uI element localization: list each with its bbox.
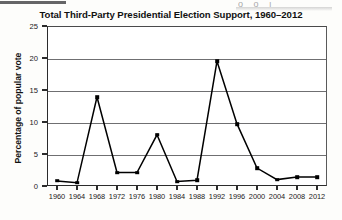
data-point [295, 175, 299, 179]
series-line [47, 26, 327, 186]
chart-figure: o o ı Total Third-Party Presidential Ele… [0, 0, 342, 220]
x-tick-mark [276, 186, 277, 190]
x-tick-mark [116, 186, 117, 190]
x-tick-mark [236, 186, 237, 190]
x-tick-mark [296, 186, 297, 190]
x-tick-mark [96, 186, 97, 190]
y-tick-label: 10 [12, 118, 38, 127]
x-tick-mark [216, 186, 217, 190]
x-tick-mark [136, 186, 137, 190]
y-tick-label: 20 [12, 54, 38, 63]
data-point [315, 175, 319, 179]
data-point [115, 171, 119, 175]
data-point [55, 179, 59, 183]
data-point [235, 122, 239, 126]
data-point [255, 166, 259, 170]
x-tick-label: 2012 [300, 192, 334, 201]
scan-artifact-text: o o ı [238, 0, 290, 8]
x-tick-mark [156, 186, 157, 190]
data-point [75, 181, 79, 185]
data-point [275, 178, 279, 182]
data-point [135, 171, 139, 175]
data-point [215, 59, 219, 63]
x-tick-mark [316, 186, 317, 190]
chart-title: Total Third-Party Presidential Election … [0, 9, 342, 20]
data-point [175, 180, 179, 184]
y-tick-label: 25 [12, 22, 38, 31]
y-tick-label: 15 [12, 86, 38, 95]
y-tick-label: 0 [12, 182, 38, 191]
x-tick-mark [196, 186, 197, 190]
data-point [95, 95, 99, 99]
scan-artifact-bar [0, 1, 66, 4]
y-tick-label: 5 [12, 150, 38, 159]
x-tick-mark [56, 186, 57, 190]
data-point [195, 178, 199, 182]
x-tick-mark [176, 186, 177, 190]
y-axis-label: Percentage of popular vote [13, 28, 23, 188]
x-tick-mark [76, 186, 77, 190]
x-tick-mark [256, 186, 257, 190]
data-point [155, 133, 159, 137]
